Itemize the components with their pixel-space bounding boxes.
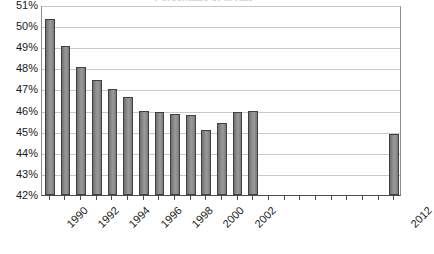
bar-slot	[89, 5, 105, 195]
x-axis-tick-label: 1992	[95, 204, 121, 230]
bar-slot	[214, 5, 230, 195]
bar[interactable]	[155, 112, 165, 195]
bar[interactable]	[389, 134, 399, 195]
x-axis-tick-mark	[96, 196, 97, 200]
bar-slot	[245, 5, 261, 195]
bar[interactable]	[76, 67, 86, 195]
x-axis-tick-mark	[205, 196, 206, 200]
x-axis-tick-mark	[393, 196, 394, 200]
bar[interactable]	[92, 80, 102, 195]
bar-slot	[386, 5, 402, 195]
x-axis-tick-mark	[190, 196, 191, 200]
x-axis-tick-mark	[64, 196, 65, 200]
y-axis-tick-label: 44%	[0, 148, 38, 159]
bar-slot	[58, 5, 74, 195]
bar-slot	[371, 5, 387, 195]
x-axis-tick-label: 1998	[189, 204, 215, 230]
y-axis-tick-label: 51%	[0, 0, 38, 11]
bar-slot	[152, 5, 168, 195]
x-axis-tick-mark	[143, 196, 144, 200]
x-axis-tick-label: 1994	[127, 204, 153, 230]
bar-slot	[120, 5, 136, 195]
y-axis-tick-label: 46%	[0, 106, 38, 117]
x-axis-tick-mark	[315, 196, 316, 200]
x-axis-tick-mark	[49, 196, 50, 200]
x-axis-tick-mark	[362, 196, 363, 200]
y-axis-tick-label: 45%	[0, 127, 38, 138]
x-axis-tick-mark	[299, 196, 300, 200]
y-axis-tick-label: 48%	[0, 63, 38, 74]
bar[interactable]	[186, 115, 196, 195]
x-axis-tick-mark	[284, 196, 285, 200]
y-axis-tick-label: 49%	[0, 42, 38, 53]
x-axis-tick-mark	[111, 196, 112, 200]
bar-slot	[261, 5, 277, 195]
bar[interactable]	[123, 97, 133, 195]
x-axis-tick-mark	[127, 196, 128, 200]
bar[interactable]	[248, 111, 258, 195]
bar[interactable]	[217, 123, 227, 195]
x-axis-tick-label: 2002	[252, 204, 278, 230]
y-axis-tick-label: 43%	[0, 169, 38, 180]
plot-area	[41, 6, 401, 196]
bar[interactable]	[108, 89, 118, 195]
chart-title: Percentage of ... rate	[0, 0, 408, 1]
bar-slot	[308, 5, 324, 195]
y-axis: 42%43%44%45%46%47%48%49%50%51%	[0, 0, 38, 254]
bar-slot	[292, 5, 308, 195]
x-axis-tick-mark	[80, 196, 81, 200]
x-axis-tick-mark	[346, 196, 347, 200]
bar-slot	[277, 5, 293, 195]
bar[interactable]	[139, 111, 149, 195]
x-axis-tick-mark	[221, 196, 222, 200]
x-axis-tick-mark	[252, 196, 253, 200]
bar[interactable]	[170, 114, 180, 195]
y-axis-tick-label: 42%	[0, 190, 38, 201]
bar-slot	[105, 5, 121, 195]
x-axis-tick-mark	[378, 196, 379, 200]
bar[interactable]	[233, 112, 243, 195]
bar[interactable]	[45, 19, 55, 195]
y-axis-tick-label: 47%	[0, 84, 38, 95]
bar-slot	[355, 5, 371, 195]
x-axis-tick-label: 2012	[408, 204, 434, 230]
x-axis-tick-label: 1990	[64, 204, 90, 230]
x-axis-tick-mark	[331, 196, 332, 200]
bar-slot	[324, 5, 340, 195]
bar-slot	[167, 5, 183, 195]
bar-slot	[136, 5, 152, 195]
bar-slot	[73, 5, 89, 195]
x-axis-tick-mark	[174, 196, 175, 200]
x-axis-tick-label: 1996	[158, 204, 184, 230]
bar-slot	[42, 5, 58, 195]
bar-slot	[230, 5, 246, 195]
bar[interactable]	[61, 46, 71, 195]
y-axis-tick-label: 50%	[0, 21, 38, 32]
bar-series	[42, 7, 400, 195]
x-axis-tick-mark	[237, 196, 238, 200]
bar-slot	[199, 5, 215, 195]
bar-slot	[183, 5, 199, 195]
x-axis-tick-mark	[158, 196, 159, 200]
bar[interactable]	[201, 130, 211, 195]
bar-slot	[339, 5, 355, 195]
x-axis-tick-mark	[268, 196, 269, 200]
x-axis-tick-label: 2000	[221, 204, 247, 230]
